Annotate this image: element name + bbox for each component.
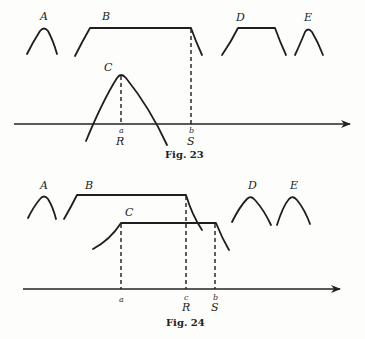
label-e: E xyxy=(303,11,312,24)
label-d: D xyxy=(247,179,257,192)
caption-fig-23: Fig. 23 xyxy=(165,149,204,160)
mark-b: b xyxy=(189,126,194,135)
mark-s: S xyxy=(187,135,195,148)
curve-c xyxy=(86,75,167,145)
label-c: C xyxy=(104,61,113,74)
mark-r: R xyxy=(115,135,124,148)
mark-a: a xyxy=(119,126,124,135)
figure-svg: A B D E C a R b S Fig. 23 A B C xyxy=(0,0,365,339)
curve-d xyxy=(222,28,286,55)
label-c: C xyxy=(125,206,134,219)
curve-c xyxy=(93,223,229,250)
label-a: A xyxy=(39,10,48,23)
label-b: B xyxy=(101,10,110,23)
label-b: B xyxy=(84,179,93,192)
diagram-canvas: A B D E C a R b S Fig. 23 A B C xyxy=(0,0,365,339)
curve-a xyxy=(28,197,56,220)
caption-fig-24: Fig. 24 xyxy=(166,317,205,328)
label-d: D xyxy=(235,11,245,24)
figure-23: A B D E C a R b S Fig. 23 xyxy=(14,10,350,160)
mark-s: S xyxy=(211,301,219,314)
curve-d xyxy=(232,197,271,225)
label-a: A xyxy=(39,179,48,192)
curve-b xyxy=(75,28,202,56)
curve-e xyxy=(277,197,310,225)
figure-24: A B C D E a c R b S Fig. 24 xyxy=(23,179,340,328)
curve-a xyxy=(27,29,57,55)
mark-r: R xyxy=(181,301,190,314)
label-e: E xyxy=(289,179,298,192)
mark-a: a xyxy=(119,295,124,304)
curve-e xyxy=(295,30,323,56)
